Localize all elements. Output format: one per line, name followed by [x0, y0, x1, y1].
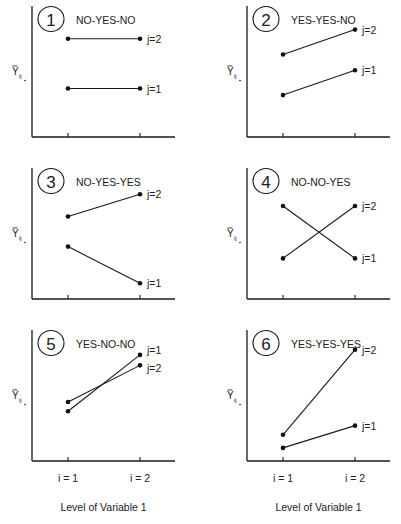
series-line	[68, 194, 140, 216]
y-axis-subscript: ij	[234, 73, 237, 79]
data-point	[281, 93, 286, 98]
series-line	[283, 426, 355, 448]
panel-title: NO-YES-NO	[76, 14, 136, 26]
panel-6: 6YES-YES-YESYijj=2j=1i = 1i = 2Level of …	[227, 330, 390, 513]
y-axis-subscript: ij	[234, 397, 237, 403]
series-j-2: j=2	[281, 24, 377, 57]
y-dot-mark	[24, 404, 26, 406]
panel-1: 1NO-YES-NOYijj=2j=1	[12, 6, 175, 137]
panel-title: YES-YES-YES	[291, 338, 361, 350]
series-line	[283, 30, 355, 55]
series-line	[68, 247, 140, 284]
y-axis-subscript: ij	[19, 397, 22, 403]
series-j-1: j=1	[281, 64, 377, 97]
series-label: j=1	[361, 252, 376, 264]
panel-number: 5	[46, 335, 55, 354]
series-j-1: j=1	[66, 244, 162, 289]
data-point	[353, 68, 358, 73]
series-j-2: j=2	[66, 362, 162, 404]
data-point	[138, 192, 143, 197]
interaction-plots-figure: 1NO-YES-NOYijj=2j=12YES-YES-NOYijj=2j=13…	[0, 0, 401, 524]
series-j-1: j=1	[281, 204, 377, 265]
data-point	[66, 86, 71, 91]
data-point	[353, 256, 358, 261]
data-point	[353, 423, 358, 428]
y-axis-subscript: ij	[234, 235, 237, 241]
series-line	[68, 355, 140, 411]
data-point	[138, 86, 143, 91]
panel-5: 5YES-NO-NOYijj=1j=2i = 1i = 2Level of Va…	[12, 330, 175, 513]
panel-number: 4	[261, 173, 270, 192]
panel-title: YES-YES-NO	[291, 14, 356, 26]
data-point	[138, 281, 143, 286]
series-label: j=2	[361, 24, 376, 36]
series-label: j=1	[146, 83, 161, 95]
panel-number: 3	[46, 173, 55, 192]
x-axis-title: Level of Variable 1	[275, 501, 361, 513]
series-label: j=2	[146, 188, 161, 200]
x-tick-label: i = 1	[58, 472, 78, 484]
y-axis-subscript: ij	[19, 73, 22, 79]
y-axis-label: Y	[12, 390, 19, 401]
series-label: j=2	[146, 33, 161, 45]
panel-title: YES-NO-NO	[76, 338, 136, 350]
series-line	[68, 365, 140, 402]
data-point	[138, 36, 143, 41]
series-j-1: j=1	[66, 83, 162, 95]
data-point	[353, 27, 358, 32]
panel-number: 6	[261, 335, 270, 354]
series-label: j=1	[146, 277, 161, 289]
y-axis-subscript: ij	[19, 235, 22, 241]
series-label: j=2	[146, 362, 161, 374]
data-point	[281, 446, 286, 451]
y-axis-label: Y	[227, 228, 234, 239]
panel-4: 4NO-NO-YESYijj=2j=1	[227, 168, 390, 299]
data-point	[66, 409, 71, 414]
series-j-2: j=2	[66, 33, 162, 45]
data-point	[66, 36, 71, 41]
data-point	[66, 244, 71, 249]
y-axis-label: Y	[227, 66, 234, 77]
data-point	[281, 433, 286, 438]
data-point	[281, 52, 286, 57]
series-label: j=2	[361, 200, 376, 212]
y-dot-mark	[239, 80, 241, 82]
series-line	[283, 70, 355, 95]
data-point	[66, 214, 71, 219]
y-dot-mark	[24, 80, 26, 82]
data-point	[353, 204, 358, 209]
y-axis-label: Y	[227, 390, 234, 401]
series-line	[283, 350, 355, 435]
panel-number: 1	[46, 11, 55, 30]
series-label: j=2	[361, 344, 376, 356]
data-point	[138, 353, 143, 358]
y-dot-mark	[24, 242, 26, 244]
x-tick-label: i = 2	[345, 472, 365, 484]
data-point	[138, 363, 143, 368]
panel-number: 2	[261, 11, 270, 30]
panel-2: 2YES-YES-NOYijj=2j=1	[227, 6, 390, 137]
series-j-1: j=1	[281, 420, 377, 451]
x-tick-label: i = 2	[130, 472, 150, 484]
panel-title: NO-YES-YES	[76, 176, 141, 188]
y-dot-mark	[239, 242, 241, 244]
series-label: j=1	[361, 420, 376, 432]
data-point	[353, 347, 358, 352]
y-dot-mark	[239, 404, 241, 406]
y-axis-label: Y	[12, 228, 19, 239]
y-axis-label: Y	[12, 66, 19, 77]
panel-title: NO-NO-YES	[291, 176, 351, 188]
series-label: j=1	[361, 64, 376, 76]
series-label: j=1	[146, 344, 161, 356]
x-axis-title: Level of Variable 1	[60, 501, 146, 513]
x-tick-label: i = 1	[273, 472, 293, 484]
panel-3: 3NO-YES-YESYijj=2j=1	[12, 168, 175, 299]
data-point	[281, 256, 286, 261]
data-point	[281, 204, 286, 209]
data-point	[66, 400, 71, 405]
series-j-2: j=2	[66, 188, 162, 219]
